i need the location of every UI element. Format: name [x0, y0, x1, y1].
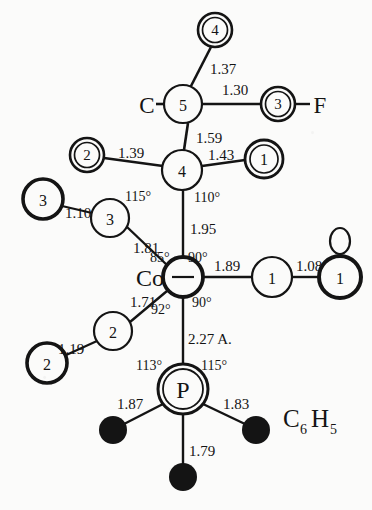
- angle-92: 92°: [151, 302, 171, 317]
- atom-node-3-inner[interactable]: 3: [91, 199, 129, 237]
- phenyl-node-left[interactable]: [99, 416, 127, 444]
- bond-length-2c-2b: 1.19: [58, 341, 84, 357]
- angle-110-upper-right: 110°: [194, 190, 220, 205]
- atom-label: 3: [106, 211, 114, 228]
- angle-90-lower-right: 90°: [192, 295, 212, 310]
- bond-length-P-Ph3: 1.79: [189, 443, 215, 459]
- phenyl-node-bottom[interactable]: [169, 463, 197, 491]
- bond-length-5-3F: 1.30: [222, 82, 248, 98]
- atom-node-2-upper[interactable]: 2: [70, 138, 104, 172]
- phenyl-formula-c: C: [283, 405, 300, 432]
- atom-label: 1: [268, 270, 276, 287]
- atom-label: 4: [211, 22, 219, 38]
- bond-length-2a-4: 1.39: [118, 145, 144, 161]
- angle-85: 85°: [150, 250, 170, 265]
- bond-length-Co-P: 2.27 A.: [188, 331, 232, 347]
- atom-label: 1: [260, 151, 268, 168]
- bond-length-Co-1b: 1.89: [214, 258, 240, 274]
- phenyl-node-right[interactable]: [242, 416, 270, 444]
- angle-90-upper-right: 90°: [188, 250, 208, 265]
- angle-115-upper-left: 115°: [125, 189, 151, 204]
- bond-length-4-Co: 1.95: [190, 221, 216, 237]
- atom-node-4-center[interactable]: 4: [162, 150, 202, 190]
- structure-svg: 4 5 C 3 F 2 1 4 3 3: [0, 0, 372, 510]
- atom-label: P: [176, 377, 189, 403]
- phenyl-formula-h-subscript: 5: [330, 422, 337, 437]
- atom-label: 1: [336, 270, 344, 287]
- atom-label: 2: [109, 324, 117, 341]
- atom-label: 2: [43, 356, 51, 373]
- cobalt-label: Co: [136, 265, 164, 291]
- bond-length-5-4: 1.59: [196, 130, 222, 146]
- atom-node-4-top[interactable]: 4: [198, 13, 232, 47]
- atom-node-1-carbonyl-outer[interactable]: 1: [319, 256, 361, 298]
- bond-length-4top-5: 1.37: [210, 61, 237, 77]
- figure-canvas: 4 5 C 3 F 2 1 4 3 3: [0, 0, 372, 510]
- atom-node-2-inner[interactable]: 2: [94, 312, 132, 350]
- atom-label: 3: [274, 96, 282, 112]
- atom-node-5[interactable]: 5: [164, 85, 202, 123]
- atom-label: 5: [179, 97, 187, 114]
- atom-node-3-fluorine-side[interactable]: 3: [261, 87, 295, 121]
- phenyl-formula-c-subscript: 6: [300, 422, 307, 437]
- atom-label: 4: [178, 163, 186, 180]
- fluorine-terminal-label: F: [314, 93, 327, 118]
- phenyl-formula-h: H: [311, 405, 329, 432]
- carbon-terminal-label: C: [139, 93, 154, 118]
- bond-length-3c-3b: 1.10: [65, 205, 91, 221]
- oxygen-icon: [330, 228, 350, 254]
- bond-length-P-Ph1: 1.87: [117, 396, 144, 412]
- atom-label: 3: [39, 192, 47, 209]
- atom-node-1-upper[interactable]: 1: [245, 140, 283, 178]
- bond-length-P-Ph2: 1.83: [223, 396, 249, 412]
- atom-node-3-outer[interactable]: 3: [23, 179, 63, 219]
- angle-115-lower-right: 115°: [201, 358, 227, 373]
- atom-node-1-carbonyl-inner[interactable]: 1: [252, 257, 292, 297]
- angle-113: 113°: [136, 358, 162, 373]
- bond-length-4-1a: 1.43: [208, 147, 234, 163]
- atom-label: 2: [83, 147, 91, 163]
- paper-background: [0, 0, 372, 510]
- bond-length-1b-1c: 1.08: [296, 258, 322, 274]
